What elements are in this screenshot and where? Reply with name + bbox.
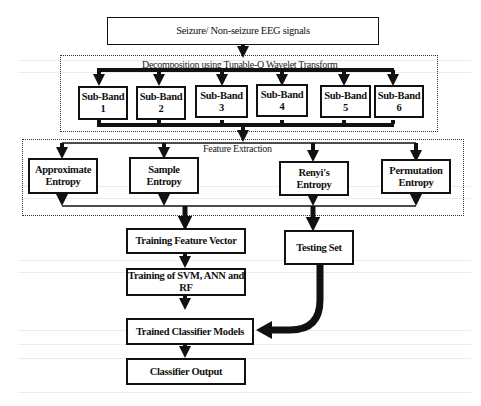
classifier-output-box: Classifier Output bbox=[126, 358, 246, 385]
trained-classifier-models-box: Trained Classifier Models bbox=[126, 318, 254, 345]
subband-5-box: Sub-Band 5 bbox=[320, 85, 371, 118]
subband-1-box: Sub-Band 1 bbox=[78, 86, 128, 120]
renyis-entropy-box: Renyi's Entropy bbox=[279, 161, 349, 196]
training-feature-vector-box: Training Feature Vector bbox=[126, 228, 246, 254]
flowchart-canvas: Decomposition using Tunable-Q Wavelet Tr… bbox=[0, 0, 481, 406]
sample-entropy-box: Sample Entropy bbox=[129, 157, 199, 194]
subband-3-box: Sub-Band 3 bbox=[195, 85, 248, 118]
training-classifiers-box: Training of SVM, ANN and RF bbox=[126, 268, 246, 296]
connector-arrows bbox=[0, 0, 481, 406]
approximate-entropy-box: Approximate Entropy bbox=[28, 158, 98, 194]
testing-set-box: Testing Set bbox=[284, 230, 354, 265]
permutation-entropy-box: Permutation Entropy bbox=[381, 159, 451, 194]
subband-6-box: Sub-Band 6 bbox=[374, 85, 424, 118]
subband-4-box: Sub-Band 4 bbox=[256, 84, 308, 117]
subband-2-box: Sub-Band 2 bbox=[136, 86, 186, 120]
input-signals-box: Seizure/ Non-seizure EEG signals bbox=[107, 17, 379, 45]
